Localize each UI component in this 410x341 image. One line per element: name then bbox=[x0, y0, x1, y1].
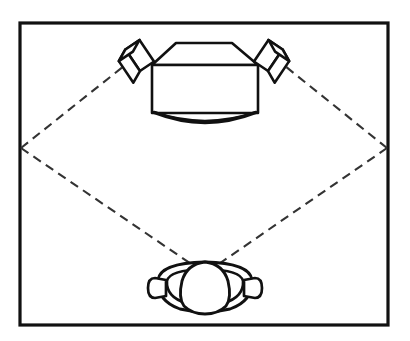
right-earcup bbox=[244, 278, 262, 298]
figure-root: Top-down diagram of a display with two l… bbox=[0, 0, 410, 341]
television-top-view bbox=[152, 43, 258, 123]
left-earcup bbox=[148, 278, 166, 298]
listener-head-outline bbox=[180, 262, 229, 314]
tv-cabinet-body bbox=[152, 65, 258, 113]
technical-line-drawing: Top-down diagram of a display with two l… bbox=[0, 0, 410, 341]
